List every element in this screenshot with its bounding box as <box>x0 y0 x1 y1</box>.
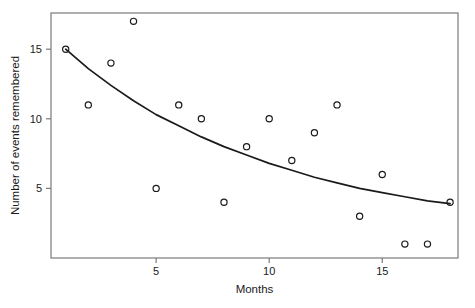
x-axis-ticks: 51015 <box>153 258 388 277</box>
x-axis-title: Months <box>236 283 274 295</box>
data-point <box>266 116 272 122</box>
x-tick-label: 5 <box>153 265 159 277</box>
data-point <box>85 102 91 108</box>
data-point <box>334 102 340 108</box>
scatter-plot-figure: 51015 51015 Months Number of events reme… <box>0 0 475 308</box>
data-point <box>311 130 317 136</box>
data-point <box>198 116 204 122</box>
data-point <box>379 171 385 177</box>
data-point <box>153 185 159 191</box>
data-point <box>402 241 408 247</box>
x-tick-label: 15 <box>376 265 388 277</box>
y-tick-label: 10 <box>30 113 42 125</box>
data-point <box>176 102 182 108</box>
data-point-group <box>63 18 454 247</box>
x-tick-label: 10 <box>263 265 275 277</box>
data-point <box>424 241 430 247</box>
data-point <box>108 60 114 66</box>
data-point <box>130 18 136 24</box>
y-tick-label: 15 <box>30 43 42 55</box>
y-tick-label: 5 <box>36 182 42 194</box>
data-point <box>357 213 363 219</box>
y-axis-ticks: 51015 <box>30 43 51 194</box>
data-point <box>221 199 227 205</box>
data-point <box>243 144 249 150</box>
data-point <box>289 157 295 163</box>
plot-frame <box>51 13 458 258</box>
fit-curve <box>66 49 450 204</box>
y-axis-title: Number of events remembered <box>9 56 21 215</box>
plot-canvas: 51015 51015 Months Number of events reme… <box>0 0 475 308</box>
